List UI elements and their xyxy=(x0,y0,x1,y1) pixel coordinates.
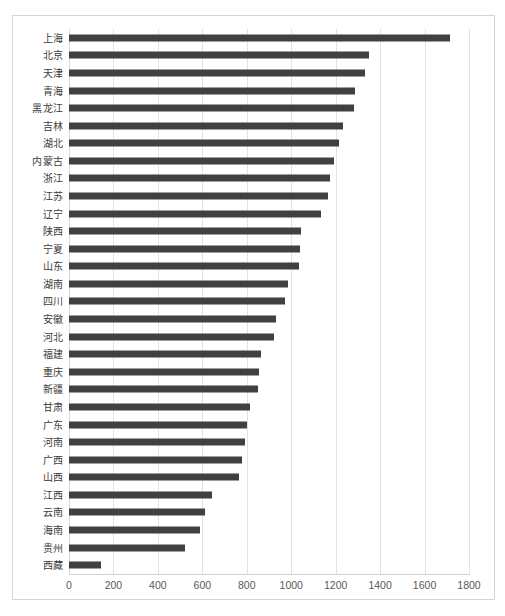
bar-row: 西藏 xyxy=(13,556,496,574)
category-label: 江苏 xyxy=(43,191,63,202)
category-label: 湖南 xyxy=(43,278,63,289)
bar xyxy=(69,316,276,323)
bar-row: 四川 xyxy=(13,293,496,311)
category-label: 贵州 xyxy=(43,542,63,553)
bar-row: 河北 xyxy=(13,328,496,346)
x-axis-tick-labels: 020040060080010001200140016001800 xyxy=(13,578,496,598)
bar-row: 湖南 xyxy=(13,275,496,293)
bar xyxy=(69,245,300,252)
x-tick-label: 200 xyxy=(105,578,123,592)
bar-row: 云南 xyxy=(13,504,496,522)
category-label: 山西 xyxy=(43,472,63,483)
bar-row: 重庆 xyxy=(13,363,496,381)
x-tick-label: 0 xyxy=(66,578,72,592)
chart-frame: 上海北京天津青海黑龙江吉林湖北内蒙古浙江江苏辽宁陕西宁夏山东湖南四川安徽河北福建… xyxy=(12,15,495,600)
bar xyxy=(69,456,242,463)
bar-row: 黑龙江 xyxy=(13,99,496,117)
bar xyxy=(69,263,299,270)
bar-row: 北京 xyxy=(13,47,496,65)
bar xyxy=(69,298,285,305)
category-label: 云南 xyxy=(43,507,63,518)
bar xyxy=(69,386,258,393)
bar xyxy=(69,175,330,182)
category-label: 甘肃 xyxy=(43,401,63,412)
category-label: 宁夏 xyxy=(43,243,63,254)
bar xyxy=(69,368,259,375)
category-label: 山东 xyxy=(43,261,63,272)
category-label: 北京 xyxy=(43,50,63,61)
bar xyxy=(69,351,261,358)
category-label: 吉林 xyxy=(43,120,63,131)
bar xyxy=(69,491,212,498)
bar-row: 福建 xyxy=(13,345,496,363)
bar xyxy=(69,69,365,76)
category-label: 重庆 xyxy=(43,366,63,377)
bar-row: 江西 xyxy=(13,486,496,504)
x-tick-label: 800 xyxy=(238,578,256,592)
bar-row: 浙江 xyxy=(13,170,496,188)
bar-row: 江苏 xyxy=(13,187,496,205)
x-tick-label: 1000 xyxy=(280,578,303,592)
bar xyxy=(69,52,369,59)
bar-rows: 上海北京天津青海黑龙江吉林湖北内蒙古浙江江苏辽宁陕西宁夏山东湖南四川安徽河北福建… xyxy=(13,29,496,574)
category-label: 西藏 xyxy=(43,560,63,571)
category-label: 江西 xyxy=(43,489,63,500)
category-label: 辽宁 xyxy=(43,208,63,219)
category-label: 上海 xyxy=(43,32,63,43)
bar-row: 天津 xyxy=(13,64,496,82)
bar-row: 山东 xyxy=(13,258,496,276)
bar xyxy=(69,527,200,534)
bar-row: 贵州 xyxy=(13,539,496,557)
bar xyxy=(69,333,274,340)
category-label: 河南 xyxy=(43,437,63,448)
bar xyxy=(69,403,250,410)
bar xyxy=(69,439,245,446)
bar xyxy=(69,544,185,551)
x-tick-label: 1200 xyxy=(324,578,347,592)
x-axis-line xyxy=(69,574,470,575)
bar xyxy=(69,421,247,428)
bar-row: 宁夏 xyxy=(13,240,496,258)
x-tick-label: 400 xyxy=(149,578,167,592)
category-label: 新疆 xyxy=(43,384,63,395)
category-label: 黑龙江 xyxy=(32,103,63,114)
category-label: 内蒙古 xyxy=(32,155,63,166)
category-label: 浙江 xyxy=(43,173,63,184)
bar-row: 山西 xyxy=(13,469,496,487)
bar-row: 湖北 xyxy=(13,134,496,152)
bar xyxy=(69,193,328,200)
bar-row: 广东 xyxy=(13,416,496,434)
bar-row: 广西 xyxy=(13,451,496,469)
bar xyxy=(69,122,343,129)
bar xyxy=(69,509,205,516)
category-label: 天津 xyxy=(43,67,63,78)
category-label: 湖北 xyxy=(43,138,63,149)
bar xyxy=(69,87,355,94)
bar-row: 甘肃 xyxy=(13,398,496,416)
bar-row: 吉林 xyxy=(13,117,496,135)
bar xyxy=(69,210,321,217)
bar xyxy=(69,34,450,41)
bar xyxy=(69,562,101,569)
x-tick-label: 600 xyxy=(194,578,212,592)
bar-row: 安徽 xyxy=(13,310,496,328)
bar xyxy=(69,105,354,112)
bar xyxy=(69,157,334,164)
bar-row: 青海 xyxy=(13,82,496,100)
category-label: 安徽 xyxy=(43,314,63,325)
bar-row: 陕西 xyxy=(13,222,496,240)
category-label: 青海 xyxy=(43,85,63,96)
bar xyxy=(69,280,288,287)
category-label: 广东 xyxy=(43,419,63,430)
bar-row: 河南 xyxy=(13,433,496,451)
category-label: 广西 xyxy=(43,454,63,465)
x-tick-label: 1800 xyxy=(457,578,480,592)
bar xyxy=(69,228,301,235)
bar-row: 辽宁 xyxy=(13,205,496,223)
x-tick-label: 1600 xyxy=(413,578,436,592)
category-label: 河北 xyxy=(43,331,63,342)
bar xyxy=(69,474,239,481)
category-label: 海南 xyxy=(43,525,63,536)
bar-row: 内蒙古 xyxy=(13,152,496,170)
bar-row: 海南 xyxy=(13,521,496,539)
